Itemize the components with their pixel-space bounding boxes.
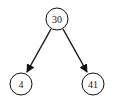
node-label: 41 (88, 79, 98, 90)
tree-node-root: 30 (46, 8, 68, 30)
edge-root-to-right (63, 29, 87, 72)
node-label: 4 (19, 79, 24, 90)
tree-node-left: 4 (10, 73, 32, 95)
edge-root-to-left (27, 29, 51, 72)
node-label: 30 (52, 14, 62, 25)
tree-diagram: 30 4 41 (0, 0, 113, 104)
tree-node-right: 41 (82, 73, 104, 95)
